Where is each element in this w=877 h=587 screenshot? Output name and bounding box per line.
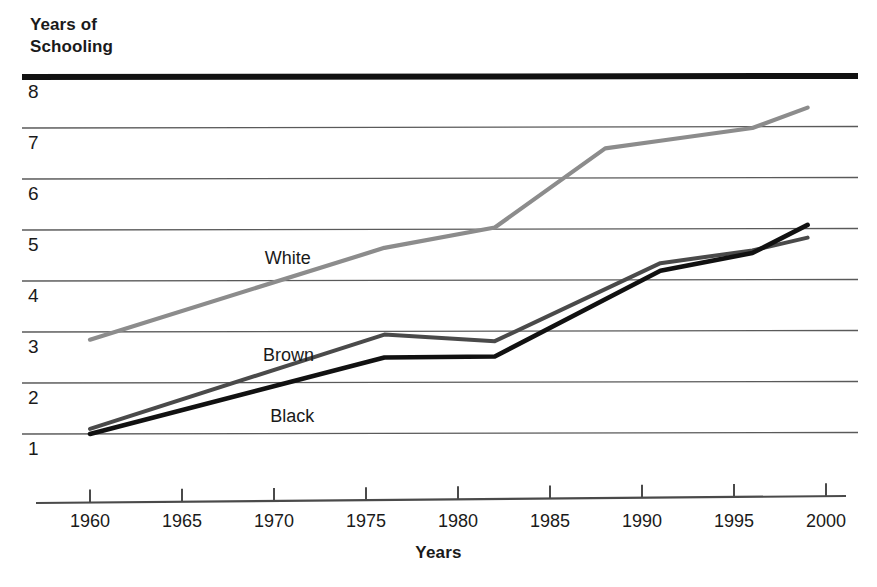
gridline	[22, 331, 858, 333]
x-tick-label-1970: 1970	[254, 512, 294, 530]
chart-figure: Years of Schooling 12345678 196019651970…	[0, 0, 877, 587]
series-line-white	[90, 108, 808, 340]
series-label-white: White	[265, 249, 311, 267]
top-rule	[22, 76, 858, 77]
gridline	[22, 382, 858, 384]
y-tick-label-2: 2	[28, 388, 39, 407]
x-tick-label-1985: 1985	[530, 512, 570, 530]
gridline	[22, 280, 858, 282]
y-tick-label-7: 7	[28, 133, 39, 152]
y-tick-label-6: 6	[28, 184, 39, 203]
x-tick-label-1965: 1965	[162, 512, 202, 530]
y-tick-label-3: 3	[28, 337, 39, 356]
series-line-brown	[90, 238, 808, 429]
series-label-brown: Brown	[263, 346, 314, 364]
y-tick-label-8: 8	[28, 82, 39, 101]
x-tick-label-1980: 1980	[438, 512, 478, 530]
y-tick-label-5: 5	[28, 235, 39, 254]
series-label-black: Black	[270, 407, 314, 425]
gridline	[22, 127, 858, 129]
gridline	[22, 178, 858, 180]
x-tick-label-1995: 1995	[714, 512, 754, 530]
x-axis-line	[36, 496, 846, 503]
plot-area	[0, 0, 877, 587]
x-axis-title: Years	[0, 543, 877, 563]
y-tick-label-1: 1	[28, 439, 39, 458]
x-tick-label-1990: 1990	[622, 512, 662, 530]
y-tick-label-4: 4	[28, 286, 39, 305]
gridline	[22, 433, 858, 435]
x-tick-label-1960: 1960	[70, 512, 110, 530]
x-tick-label-1975: 1975	[346, 512, 386, 530]
x-tick-label-2000: 2000	[806, 512, 846, 530]
gridline	[22, 229, 858, 231]
